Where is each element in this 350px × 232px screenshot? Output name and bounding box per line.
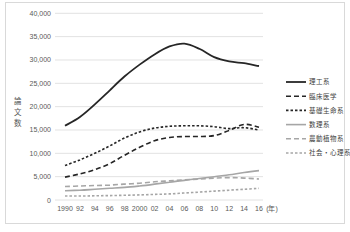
series-line-臨床医学 (65, 124, 259, 177)
series-line-農動植物系 (65, 178, 259, 187)
y-tick-label: 35,000 (30, 33, 52, 40)
x-tick-label: 08 (195, 205, 203, 212)
y-tick-label: 25,000 (30, 80, 52, 87)
x-tick-label: 06 (180, 205, 188, 212)
legend-label: 臨床医学 (309, 92, 337, 101)
y-tick-label: 0 (47, 197, 51, 204)
x-tick-label: 94 (91, 205, 99, 212)
y-tick-label: 5,000 (33, 173, 51, 180)
x-tick-label: 2000 (132, 205, 148, 212)
chart-panel: 論文数 05,00010,00015,00020,00025,00030,000… (0, 0, 350, 232)
x-tick-label: 02 (151, 205, 159, 212)
legend-label: 基礎生命系 (309, 106, 344, 115)
x-tick-label: 96 (106, 205, 114, 212)
series-line-理工系 (65, 44, 259, 126)
x-tick-label: 12 (225, 205, 233, 212)
legend-label: 社会・心理系 (309, 148, 350, 157)
legend-label: 農動植物系 (309, 134, 344, 143)
y-tick-label: 20,000 (30, 103, 52, 110)
legend-label: 数理系 (309, 120, 330, 129)
y-tick-label: 15,000 (30, 126, 52, 133)
x-tick-label: 04 (166, 205, 174, 212)
x-tick-label: 10 (210, 205, 218, 212)
y-tick-label: 10,000 (30, 150, 52, 157)
x-axis-unit-label: (年) (266, 204, 278, 213)
y-tick-label: 30,000 (30, 56, 52, 63)
x-tick-label: 1990 (57, 205, 73, 212)
series-line-基礎生命系 (65, 126, 259, 166)
x-tick-label: 98 (121, 205, 129, 212)
x-tick-label: 92 (76, 205, 84, 212)
x-tick-label: 14 (240, 205, 248, 212)
y-tick-label: 40,000 (30, 10, 52, 17)
line-chart: 05,00010,00015,00020,00025,00030,00035,0… (0, 0, 350, 232)
x-tick-label: 16 (255, 205, 263, 212)
legend-label: 理工系 (309, 77, 330, 85)
